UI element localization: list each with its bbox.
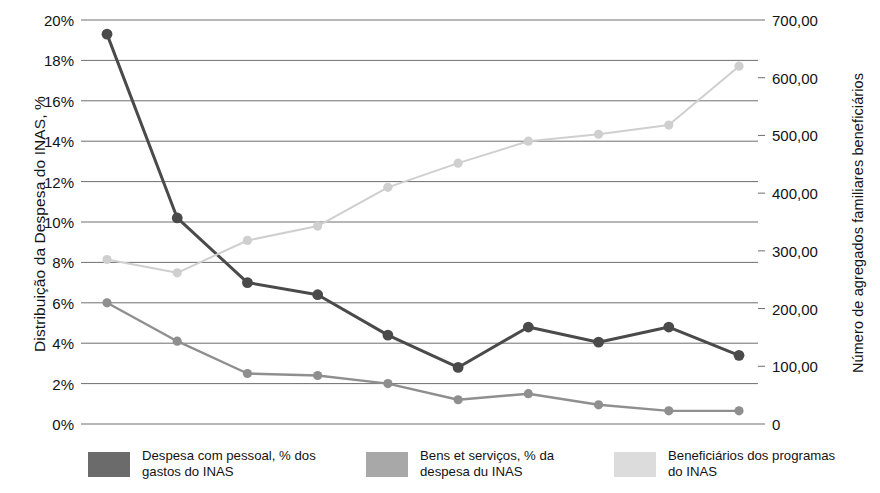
data-point xyxy=(524,137,533,146)
data-point xyxy=(664,120,673,129)
data-point xyxy=(242,277,253,288)
data-point xyxy=(453,362,464,373)
data-point xyxy=(102,255,111,264)
y-axis-left-tick-label: 18% xyxy=(22,53,74,68)
legend-item[interactable]: Despesa com pessoal, % dos gastos do INA… xyxy=(88,448,366,480)
series-line xyxy=(107,303,739,411)
plot-svg xyxy=(88,20,758,424)
y-axis-right-title: Número de agregados familiares beneficiá… xyxy=(850,13,866,433)
data-point xyxy=(313,221,322,230)
chart-container: Distribuição da Despesa do INAS, % Númer… xyxy=(0,0,880,493)
data-point xyxy=(102,29,113,40)
data-point xyxy=(172,213,183,224)
y-axis-left-tick-label: 2% xyxy=(22,377,74,392)
y-axis-right-tick-label: 600,00 xyxy=(772,71,818,86)
data-point xyxy=(102,298,111,307)
y-axis-right-tick-label: 500,00 xyxy=(772,128,818,143)
data-point xyxy=(734,406,743,415)
legend-item[interactable]: Beneficiários dos programas do INAS xyxy=(614,448,848,480)
series-line xyxy=(107,34,739,367)
legend-item[interactable]: Bens et serviços, % da despesa du INAS xyxy=(366,448,614,480)
data-point xyxy=(593,337,604,348)
y-axis-left-tick-label: 0% xyxy=(22,417,74,432)
data-point xyxy=(454,395,463,404)
series-0 xyxy=(102,29,745,373)
gridlines xyxy=(88,20,758,424)
data-point xyxy=(594,400,603,409)
chart-legend: Despesa com pessoal, % dos gastos do INA… xyxy=(88,448,848,490)
data-point xyxy=(383,183,392,192)
data-point xyxy=(454,159,463,168)
data-point xyxy=(173,337,182,346)
y-axis-right-tick-label: 200,00 xyxy=(772,302,818,317)
data-point xyxy=(243,236,252,245)
y-axis-right-tick-label: 400,00 xyxy=(772,186,818,201)
y-axis-left-tick-label: 10% xyxy=(22,215,74,230)
legend-swatch-icon xyxy=(366,452,408,477)
y-axis-left-tick-label: 8% xyxy=(22,255,74,270)
legend-label: Beneficiários dos programas do INAS xyxy=(668,448,843,480)
legend-swatch-icon xyxy=(88,452,130,477)
data-point xyxy=(382,330,393,341)
data-point xyxy=(734,62,743,71)
y-axis-left-tick-label: 20% xyxy=(22,13,74,28)
data-point xyxy=(663,322,674,333)
y-axis-right-ticks xyxy=(758,20,765,424)
data-point xyxy=(313,371,322,380)
y-axis-left-tick-label: 6% xyxy=(22,296,74,311)
y-axis-left-ticks xyxy=(81,20,88,424)
plot-area xyxy=(88,20,758,424)
data-point xyxy=(664,406,673,415)
series-2 xyxy=(102,62,743,278)
y-axis-right-tick-label: 100,00 xyxy=(772,359,818,374)
data-point xyxy=(594,130,603,139)
data-point xyxy=(523,322,534,333)
series-1 xyxy=(102,298,743,415)
data-point xyxy=(243,369,252,378)
legend-label: Despesa com pessoal, % dos gastos do INA… xyxy=(142,448,317,480)
legend-label: Bens et serviços, % da despesa du INAS xyxy=(420,448,595,480)
y-axis-right-tick-label: 700,00 xyxy=(772,13,818,28)
data-point xyxy=(173,268,182,277)
y-axis-left-tick-label: 12% xyxy=(22,175,74,190)
legend-swatch-icon xyxy=(614,452,656,477)
y-axis-left-tick-label: 16% xyxy=(22,94,74,109)
data-point xyxy=(734,350,745,361)
data-point xyxy=(524,389,533,398)
y-axis-left-tick-label: 4% xyxy=(22,336,74,351)
data-point xyxy=(383,379,392,388)
y-axis-left-tick-label: 14% xyxy=(22,134,74,149)
y-axis-right-tick-label: 300,00 xyxy=(772,244,818,259)
data-point xyxy=(312,289,323,300)
y-axis-right-tick-label: 0 xyxy=(772,417,780,432)
